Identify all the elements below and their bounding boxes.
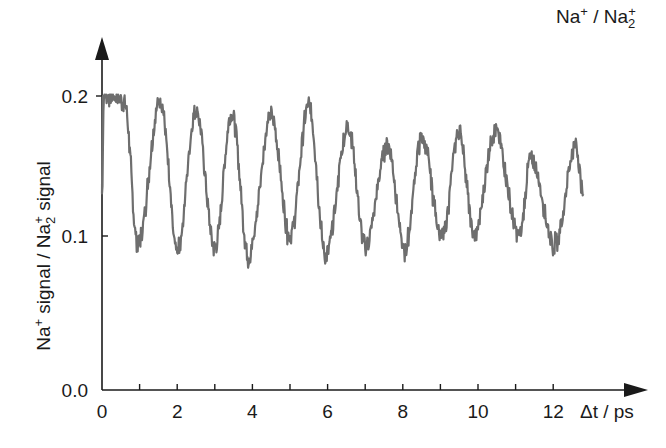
y-tick-label: 0.2 [62, 86, 88, 107]
title-na2: Na [604, 6, 628, 27]
chart-plot: 024681012 0.00.10.2 Δt / ps [0, 0, 666, 448]
y-tick-label: 0.1 [62, 226, 88, 247]
x-tick-label: 0 [97, 401, 108, 422]
chart-annotation-title: Na+ / Na2+ [556, 6, 636, 28]
title-sup-plus-2: + [628, 4, 636, 19]
x-axis-title: Δt / ps [580, 401, 634, 422]
x-tick-label: 4 [247, 401, 258, 422]
title-sup-plus: + [580, 4, 588, 19]
ylabel-end: signal [33, 161, 54, 216]
x-tick-label: 12 [543, 401, 564, 422]
y-tick-label: 0.0 [62, 380, 88, 401]
data-trace [102, 95, 583, 268]
y-axis-arrow-icon [95, 37, 109, 60]
ylabel-mid: signal / Na [33, 224, 54, 319]
x-tick-label: 2 [172, 401, 183, 422]
y-axis [95, 37, 109, 390]
x-axis [102, 383, 648, 397]
x-tick-label: 8 [398, 401, 409, 422]
y-axis-title: Na+ signal / Na2+ signal [33, 161, 55, 351]
x-tick-label: 6 [322, 401, 333, 422]
ylabel-sup-plus: + [31, 319, 46, 327]
x-axis-arrow-icon [624, 383, 648, 397]
y-ticks: 0.00.10.2 [62, 86, 108, 401]
title-na: Na [556, 6, 580, 27]
title-separator: / [588, 6, 604, 27]
ylabel-na: Na [33, 327, 54, 351]
ylabel-sup-plus-2: + [31, 216, 46, 224]
x-tick-label: 10 [467, 401, 488, 422]
